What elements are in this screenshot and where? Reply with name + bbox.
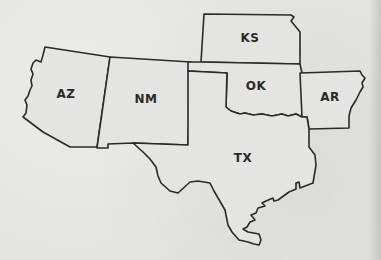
state-label-ar: AR bbox=[320, 90, 340, 104]
state-label-nm: NM bbox=[135, 92, 158, 106]
state-label-az: AZ bbox=[57, 87, 76, 101]
state-label-ks: KS bbox=[241, 31, 260, 45]
state-label-ok: OK bbox=[246, 79, 267, 93]
state-map bbox=[0, 0, 381, 260]
state-label-tx: TX bbox=[234, 151, 252, 165]
